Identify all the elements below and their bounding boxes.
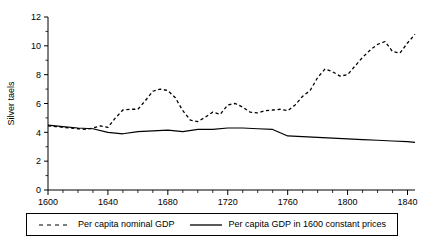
y-tick-label: 6 [36,99,41,109]
legend-label-constant: Per capita GDP in 1600 constant prices [229,220,386,229]
x-tick-label: 1680 [158,197,178,205]
x-tick-label: 1760 [278,197,298,205]
axes-group [44,17,415,195]
x-tick-label: 1600 [38,197,58,205]
legend-label-nominal: Per capita nominal GDP [78,220,175,229]
y-axis-title: Silver taels [6,81,16,126]
series-group [48,34,415,142]
x-tick-label: 1640 [98,197,118,205]
chart-legend: Per capita nominal GDP Per capita GDP in… [26,213,398,236]
series-line-1 [48,125,415,142]
series-line-0 [48,34,415,129]
y-tick-label: 0 [36,185,41,195]
x-tick-label: 1840 [397,197,417,205]
legend-swatch-solid-icon [189,220,223,230]
y-tick-label: 8 [36,70,41,80]
legend-item-constant: Per capita GDP in 1600 constant prices [189,220,386,230]
legend-item-nominal: Per capita nominal GDP [38,220,175,230]
plot-area: 0246810121600164016801720176018001840 Si… [0,0,425,205]
x-tick-label: 1720 [218,197,238,205]
chart-svg: 0246810121600164016801720176018001840 Si… [0,0,425,205]
y-axis-title-label: Silver taels [6,81,16,126]
y-tick-label: 2 [36,156,41,166]
y-tick-label: 10 [31,41,41,51]
y-tick-label: 4 [36,128,41,138]
legend-swatch-dashed-icon [38,220,72,230]
y-tick-label: 12 [31,12,41,22]
x-tick-label: 1800 [338,197,358,205]
chart-figure: 0246810121600164016801720176018001840 Si… [0,0,425,249]
